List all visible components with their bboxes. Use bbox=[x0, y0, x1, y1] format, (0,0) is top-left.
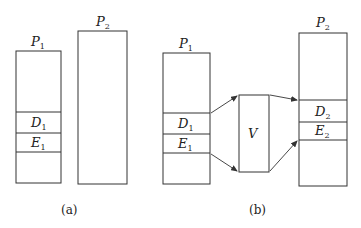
buffer-v: V bbox=[239, 95, 269, 172]
p1-a-label: P1 bbox=[30, 34, 45, 51]
segment-d1-b: D1 bbox=[177, 116, 194, 133]
segment-e2-b: E2 bbox=[314, 123, 330, 140]
caption-a: (a) bbox=[61, 203, 78, 217]
arrow-p1-to-v-top bbox=[211, 96, 237, 113]
p1-b-label: P1 bbox=[178, 36, 193, 53]
process-p2-b: P2 D2 E2 bbox=[299, 15, 347, 186]
process-p2-a: P2 bbox=[78, 14, 127, 184]
segment-d2-b: D2 bbox=[314, 104, 331, 121]
panel-a: P1 D1 E1 P2 (a) bbox=[16, 14, 127, 217]
segment-e1-a: E1 bbox=[30, 135, 46, 152]
p2-a-box bbox=[78, 31, 127, 184]
p2-b-label: P2 bbox=[315, 15, 330, 32]
process-p1-b: P1 D1 E1 bbox=[163, 36, 210, 184]
p2-a-label: P2 bbox=[95, 14, 110, 31]
arrow-p1-to-v-bottom bbox=[211, 154, 237, 171]
arrow-v-to-p2-bottom bbox=[270, 141, 297, 171]
process-p1-a: P1 D1 E1 bbox=[16, 34, 61, 183]
segment-e1-b: E1 bbox=[177, 136, 193, 153]
segment-d1-a: D1 bbox=[30, 115, 47, 132]
v-label: V bbox=[248, 126, 259, 141]
arrow-v-to-p2-top bbox=[270, 95, 297, 100]
diagram-canvas: P1 D1 E1 P2 (a) P1 D1 E1 V bbox=[0, 0, 361, 228]
panel-b: P1 D1 E1 V P2 D2 E2 (b) bbox=[163, 15, 347, 217]
caption-b: (b) bbox=[249, 203, 266, 217]
